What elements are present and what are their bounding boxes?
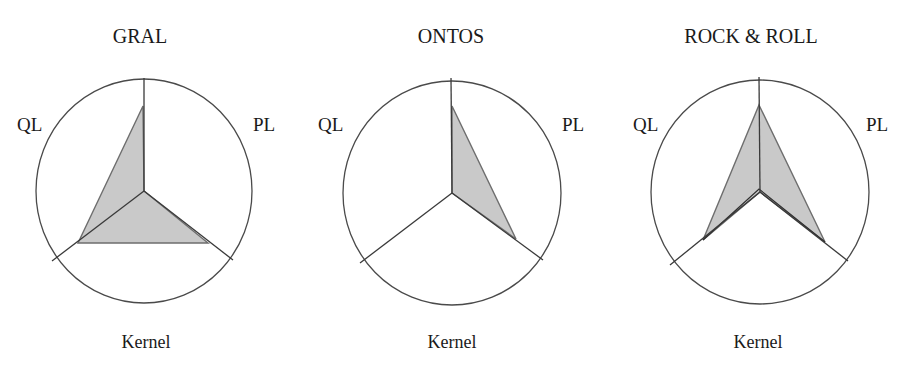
chart-title: ROCK & ROLL [684,25,817,47]
chart-title: GRAL [113,25,167,47]
axis-label-kernel: Kernel [734,332,783,352]
axis-label-ql: QL [633,114,658,135]
axis-label-kernel: Kernel [428,332,477,352]
axis-label-pl: PL [253,114,275,135]
radar-figure: GRALQLPLKernelONTOSQLPLKernelROCK & ROLL… [0,0,903,368]
axis-label-ql: QL [318,114,343,135]
chart-title: ONTOS [418,25,484,47]
radar-chart-gral: GRALQLPLKernel [17,25,275,352]
radar-chart-rock-roll: ROCK & ROLLQLPLKernel [633,25,888,352]
radar-data-area [452,106,516,239]
radar-axis-top [451,78,452,193]
axis-label-ql: QL [17,114,42,135]
radar-axis-ql [670,192,760,265]
radar-data-area [703,105,825,242]
axis-label-pl: PL [866,114,888,135]
axis-label-kernel: Kernel [122,332,171,352]
radar-chart-ontos: ONTOSQLPLKernel [318,25,584,352]
radar-data-area [78,106,208,243]
radar-axis-ql [360,193,452,263]
axis-label-pl: PL [562,114,584,135]
